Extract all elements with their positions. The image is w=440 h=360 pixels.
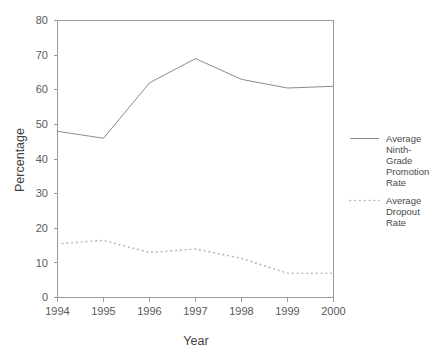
y-tick-label: 10 [36, 257, 48, 269]
legend-item-dropout-rate[interactable]: Average Dropout Rate [350, 195, 421, 228]
legend-label-line: Rate [386, 217, 406, 228]
x-axis-tick-labels: 1994 1995 1996 1997 1998 1999 2000 [45, 305, 345, 317]
y-axis-tick-labels: 80 70 60 50 40 30 20 10 0 [36, 14, 48, 303]
x-tick-label: 1995 [91, 305, 115, 317]
y-tick-label: 80 [36, 14, 48, 26]
legend-label-line: Average [386, 133, 421, 144]
x-tick-label: 1999 [275, 305, 299, 317]
series-line-promotion-rate [58, 59, 334, 139]
x-tick-label: 1997 [183, 305, 207, 317]
legend-label-line: Rate [386, 177, 406, 188]
legend-label-line: Dropout [386, 206, 420, 217]
y-tick-label: 60 [36, 83, 48, 95]
legend-item-promotion-rate[interactable]: Average Ninth- Grade Promotion Rate [350, 133, 429, 188]
axis-lines [58, 21, 334, 298]
y-tick-label: 20 [36, 222, 48, 234]
legend-label-line: Promotion [386, 166, 429, 177]
series-line-dropout-rate [58, 240, 334, 273]
y-tick-label: 40 [36, 153, 48, 165]
y-tick-label: 50 [36, 118, 48, 130]
y-axis-title: Percentage [13, 128, 27, 192]
legend: Average Ninth- Grade Promotion Rate Aver… [350, 133, 429, 228]
x-axis-title: Year [183, 334, 208, 348]
y-tick-label: 30 [36, 187, 48, 199]
y-axis-ticks [54, 21, 58, 298]
legend-label-line: Ninth- [386, 144, 411, 155]
legend-label-line: Average [386, 195, 421, 206]
x-tick-label: 1998 [229, 305, 253, 317]
y-tick-label: 0 [42, 291, 48, 303]
y-tick-label: 70 [36, 49, 48, 61]
x-tick-label: 1994 [45, 305, 69, 317]
chart-container: 80 70 60 50 40 30 20 10 0 1994 1995 1996… [0, 0, 440, 360]
line-chart: 80 70 60 50 40 30 20 10 0 1994 1995 1996… [0, 0, 440, 360]
legend-label-line: Grade [386, 155, 412, 166]
x-axis-ticks [58, 298, 334, 302]
x-tick-label: 1996 [137, 305, 161, 317]
x-tick-label: 2000 [321, 305, 345, 317]
